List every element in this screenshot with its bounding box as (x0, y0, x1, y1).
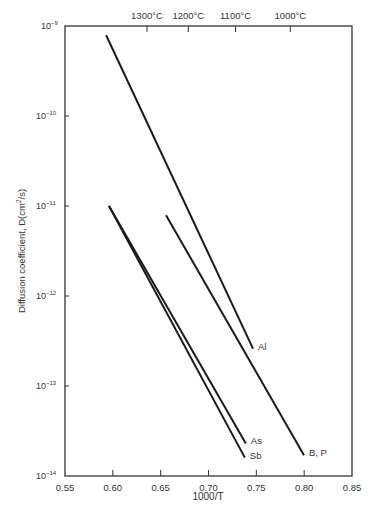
y-tick-label: 10−10 (36, 110, 57, 121)
series-label-b-p: B, P (309, 447, 327, 458)
x-tick-label: 0.75 (247, 482, 266, 493)
y-axis-label: Diffusion coefficient, D(cm2/s) (15, 189, 27, 313)
top-temperature-axis: 1300°C1200°C1100°C1000°C (131, 10, 306, 32)
x-tick-label: 0.85 (343, 482, 362, 493)
y-tick-label: 10−12 (36, 290, 57, 301)
top-tick-label: 1100°C (220, 10, 251, 21)
plot-border (65, 26, 352, 476)
series-label-as: As (251, 435, 262, 446)
diffusion-chart: 0.550.600.650.700.750.800.85 10−910−1010… (0, 0, 377, 519)
y-tick-label: 10−14 (36, 470, 57, 481)
y-axis: 10−910−1010−1110−1210−1310−14 (36, 20, 69, 481)
x-tick-label: 0.55 (56, 482, 75, 493)
top-tick-label: 1300°C (131, 10, 163, 21)
y-tick-label: 10−13 (36, 380, 57, 391)
plot-frame (65, 26, 352, 476)
top-tick-label: 1200°C (172, 10, 204, 21)
y-axis-label-tail: /s) (16, 189, 27, 200)
x-tick-label: 0.80 (295, 482, 314, 493)
series-line-sb (109, 206, 245, 458)
series-label-al: Al (258, 341, 266, 352)
y-tick-label: 10−11 (36, 200, 56, 211)
y-tick-label: 10−9 (41, 20, 59, 31)
x-axis: 0.550.600.650.700.750.800.85 (56, 470, 362, 493)
series-line-as (109, 206, 246, 443)
series-line-al (106, 35, 253, 348)
series-line-b-p (166, 215, 304, 455)
y-axis-label-main: Diffusion coefficient, D(cm (16, 203, 27, 313)
series-label-sb: Sb (250, 450, 262, 461)
x-tick-label: 0.65 (151, 482, 170, 493)
top-tick-label: 1000°C (274, 10, 306, 21)
x-axis-label: 1000/T (192, 491, 223, 502)
data-series: AlB, PAsSb (106, 35, 327, 460)
x-tick-label: 0.60 (104, 482, 123, 493)
